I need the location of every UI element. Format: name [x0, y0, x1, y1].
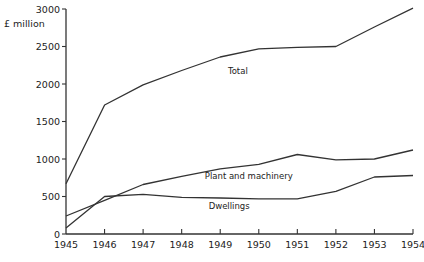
x-tick-label: 1953 [362, 239, 386, 250]
y-tick-label: 0 [54, 229, 60, 240]
line-chart: £ million 050010001500200025003000 19451… [0, 0, 424, 262]
x-tick-label: 1948 [170, 239, 194, 250]
y-tick-label: 2500 [36, 41, 60, 52]
series-lines [66, 8, 413, 228]
x-ticks: 1945194619471948194919501951195219531954 [54, 229, 424, 250]
y-tick-label: 1000 [36, 154, 60, 165]
x-tick-label: 1947 [131, 239, 155, 250]
y-axis-label: £ million [4, 18, 45, 29]
x-tick-label: 1946 [92, 239, 116, 250]
axes [66, 9, 413, 234]
y-tick-label: 2000 [36, 79, 60, 90]
y-ticks: 050010001500200025003000 [36, 4, 66, 240]
x-tick-label: 1951 [285, 239, 309, 250]
x-tick-label: 1950 [247, 239, 271, 250]
y-tick-label: 3000 [36, 4, 60, 15]
x-tick-label: 1952 [324, 239, 348, 250]
x-tick-label: 1949 [208, 239, 232, 250]
series-label-total: Total [227, 66, 248, 76]
series-line-total [66, 8, 413, 184]
y-tick-label: 1500 [36, 116, 60, 127]
series-label-dwellings: Dwellings [209, 201, 251, 211]
series-labels: TotalPlant and machineryDwellings [205, 66, 293, 212]
y-tick-label: 500 [42, 191, 60, 202]
x-tick-label: 1954 [401, 239, 424, 250]
x-tick-label: 1945 [54, 239, 78, 250]
series-label-plant-and-machinery: Plant and machinery [205, 171, 293, 181]
